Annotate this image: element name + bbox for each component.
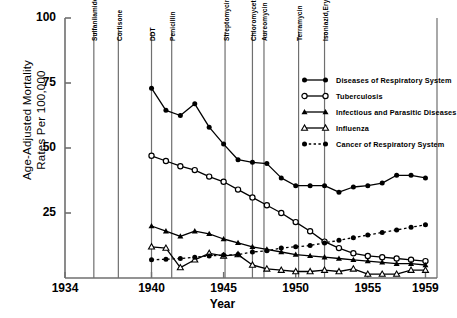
legend-marker-open-circle xyxy=(300,91,330,101)
chart-legend: Diseases of Respiratory SystemTuberculos… xyxy=(300,72,457,152)
drug-label-streptomycin: Streptomycin xyxy=(223,0,230,41)
drug-label-chloromycetin: Chloromycetin xyxy=(250,0,257,41)
legend-label: Diseases of Respiratory System xyxy=(336,76,452,85)
legend-marker-filled-circle xyxy=(300,75,330,85)
legend-item-3: Influenza xyxy=(300,120,457,136)
drug-label-ddt: DDT xyxy=(149,27,156,41)
legend-item-2: Infectious and Parasitic Diseases xyxy=(300,104,457,120)
legend-label: Cancer of Respiratory System xyxy=(336,140,444,149)
drug-label-sulfanilamide: Sulfanilamide xyxy=(91,0,98,41)
legend-marker-open-triangle xyxy=(300,123,330,133)
series-infectious-and-parasitic-diseases xyxy=(149,223,429,267)
legend-label: Tuberculosis xyxy=(336,92,383,101)
legend-label: Influenza xyxy=(336,124,369,133)
legend-marker-filled-circle xyxy=(300,139,330,149)
drug-label-isoniazid-erythromycin: Isoniazid,Erythromycin xyxy=(322,0,329,41)
legend-item-0: Diseases of Respiratory System xyxy=(300,72,457,88)
drug-label-terramycin: Terramycin xyxy=(296,5,303,41)
drug-label-aureomycin: Aureomycin xyxy=(261,2,268,41)
drug-label-cortisone: Cortisone xyxy=(116,10,123,41)
legend-item-4: Cancer of Respiratory System xyxy=(300,136,457,152)
legend-label: Infectious and Parasitic Diseases xyxy=(336,108,457,117)
figure-caption xyxy=(0,311,445,318)
legend-item-1: Tuberculosis xyxy=(300,88,457,104)
legend-marker-filled-triangle xyxy=(300,107,330,117)
series-cancer-of-respiratory-system xyxy=(149,222,428,262)
drug-label-penicillin: Penicillin xyxy=(169,11,176,41)
series-influenza xyxy=(149,244,429,277)
